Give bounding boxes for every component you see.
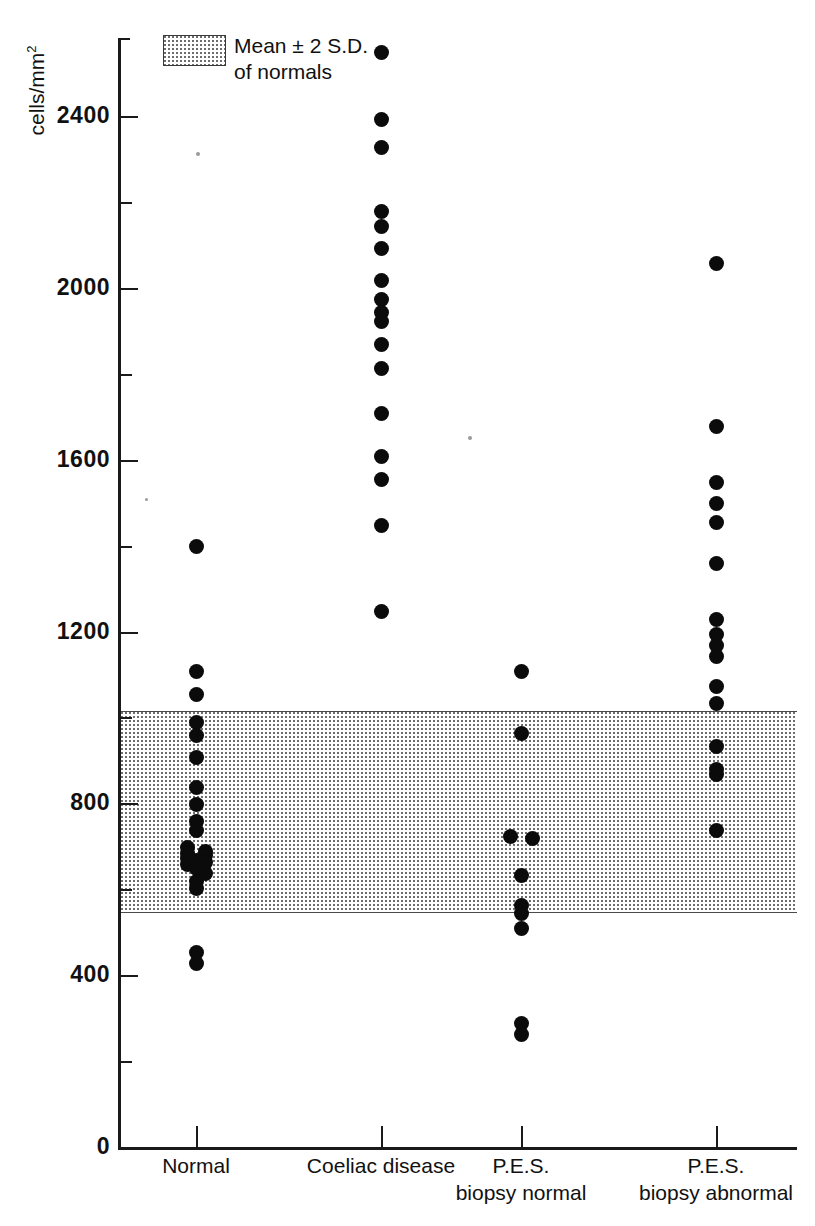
scatter-plot-figure: cells/mm2 Mean ± 2 S.D. of normals 04008… bbox=[0, 0, 815, 1226]
y-tick-major bbox=[121, 116, 138, 118]
y-tick-label: 2400 bbox=[10, 102, 110, 129]
data-point bbox=[189, 797, 204, 812]
y-tick-label: 800 bbox=[10, 789, 110, 816]
data-point bbox=[709, 496, 724, 511]
y-tick-label: 2000 bbox=[10, 274, 110, 301]
data-point bbox=[189, 664, 204, 679]
data-point bbox=[709, 515, 724, 530]
legend-label-line1: Mean ± 2 S.D. bbox=[234, 34, 368, 57]
data-point bbox=[189, 728, 204, 743]
data-point bbox=[374, 449, 389, 464]
data-point bbox=[709, 556, 724, 571]
legend: Mean ± 2 S.D. of normals bbox=[163, 33, 368, 86]
y-tick-major bbox=[121, 975, 138, 977]
data-point bbox=[709, 419, 724, 434]
data-point bbox=[374, 112, 389, 127]
x-tick bbox=[381, 1126, 383, 1147]
data-point bbox=[709, 823, 724, 838]
y-axis-title: cells/mm2 bbox=[24, 26, 49, 156]
x-tick bbox=[521, 1126, 523, 1147]
data-point bbox=[709, 679, 724, 694]
y-tick-major bbox=[121, 632, 138, 634]
y-tick-minor bbox=[121, 546, 132, 548]
data-point bbox=[709, 696, 724, 711]
x-axis-line bbox=[118, 1147, 797, 1150]
data-point bbox=[709, 649, 724, 664]
data-point bbox=[189, 539, 204, 554]
y-tick-major bbox=[121, 288, 138, 290]
data-point bbox=[514, 868, 529, 883]
data-point bbox=[374, 273, 389, 288]
data-point bbox=[189, 823, 204, 838]
data-point bbox=[514, 921, 529, 936]
data-point bbox=[514, 664, 529, 679]
y-tick-major bbox=[121, 803, 138, 805]
x-tick bbox=[196, 1126, 198, 1147]
data-point bbox=[525, 831, 540, 846]
y-tick-minor bbox=[121, 889, 132, 891]
data-point bbox=[514, 1027, 529, 1042]
y-tick-minor bbox=[121, 717, 132, 719]
y-tick-major bbox=[121, 1147, 138, 1149]
print-speckle bbox=[196, 152, 200, 156]
y-tick-label: 1200 bbox=[10, 618, 110, 645]
data-point bbox=[374, 472, 389, 487]
data-point bbox=[709, 767, 724, 782]
data-point bbox=[709, 739, 724, 754]
y-tick-minor bbox=[121, 374, 132, 376]
data-point bbox=[514, 726, 529, 741]
data-point bbox=[189, 881, 204, 896]
legend-label-line2: of normals bbox=[234, 60, 332, 83]
y-tick-label: 400 bbox=[10, 961, 110, 988]
data-point bbox=[374, 219, 389, 234]
legend-label: Mean ± 2 S.D. of normals bbox=[234, 33, 368, 86]
data-point bbox=[374, 241, 389, 256]
data-point bbox=[374, 337, 389, 352]
data-point bbox=[514, 906, 529, 921]
data-point bbox=[189, 687, 204, 702]
data-point bbox=[374, 204, 389, 219]
data-point bbox=[709, 475, 724, 490]
data-point bbox=[374, 361, 389, 376]
x-tick bbox=[716, 1126, 718, 1147]
data-point bbox=[374, 518, 389, 533]
data-point bbox=[503, 829, 518, 844]
x-category-label-line1: Normal bbox=[162, 1154, 230, 1177]
y-axis-top-cap bbox=[118, 38, 130, 40]
data-point bbox=[374, 604, 389, 619]
x-category-label-line1: P.E.S. bbox=[493, 1154, 550, 1177]
data-point bbox=[189, 780, 204, 795]
x-category-label-line2: biopsy abnormal bbox=[601, 1179, 815, 1206]
data-point bbox=[374, 45, 389, 60]
data-point bbox=[374, 406, 389, 421]
print-speckle bbox=[468, 436, 472, 440]
x-category-label: P.E.S.biopsy abnormal bbox=[601, 1152, 815, 1207]
y-tick-minor bbox=[121, 1061, 132, 1063]
data-point bbox=[189, 956, 204, 971]
data-point bbox=[709, 612, 724, 627]
x-category-label-line1: P.E.S. bbox=[688, 1154, 745, 1177]
y-tick-minor bbox=[121, 202, 132, 204]
data-point bbox=[189, 750, 204, 765]
data-point bbox=[374, 140, 389, 155]
y-tick-label: 1600 bbox=[10, 446, 110, 473]
normal-range-band bbox=[121, 711, 797, 913]
print-speckle bbox=[145, 498, 148, 501]
y-axis-line bbox=[118, 38, 121, 1150]
y-tick-major bbox=[121, 460, 138, 462]
legend-swatch-normal-band bbox=[163, 35, 226, 66]
data-point bbox=[709, 256, 724, 271]
data-point bbox=[374, 314, 389, 329]
